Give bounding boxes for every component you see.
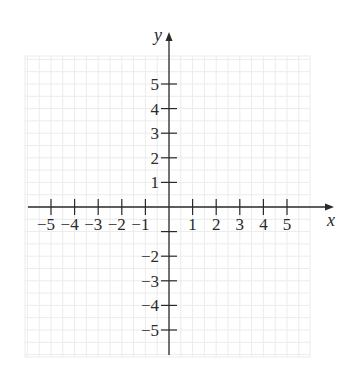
- y-tick-label: 4: [151, 100, 160, 119]
- y-tick-label: 5: [151, 75, 160, 94]
- x-tick-label: 4: [259, 215, 268, 234]
- y-tick-label: 1: [151, 173, 160, 192]
- y-tick-label: −5: [141, 321, 159, 340]
- x-axis-label: x: [326, 210, 335, 230]
- y-axis-arrow-icon: [166, 32, 173, 41]
- x-tick-label: 5: [283, 215, 292, 234]
- x-tick-label: 3: [236, 215, 245, 234]
- x-tick-label: 2: [212, 215, 221, 234]
- x-tick-label: −2: [108, 215, 126, 234]
- y-tick-label: 2: [151, 149, 160, 168]
- x-tick-label: −3: [84, 215, 102, 234]
- y-tick-label: −3: [141, 272, 159, 291]
- coordinate-plane: −5−4−3−2−11234554321−2−3−4−5 x y: [0, 0, 356, 379]
- x-tick-label: −1: [131, 215, 149, 234]
- y-tick-label: −4: [141, 296, 160, 315]
- x-tick-label: −5: [37, 215, 55, 234]
- x-tick-label: 1: [188, 215, 197, 234]
- y-axis-label: y: [152, 25, 162, 45]
- y-tick-label: 3: [151, 124, 160, 143]
- y-tick-label: −2: [141, 247, 159, 266]
- x-tick-label: −4: [61, 215, 80, 234]
